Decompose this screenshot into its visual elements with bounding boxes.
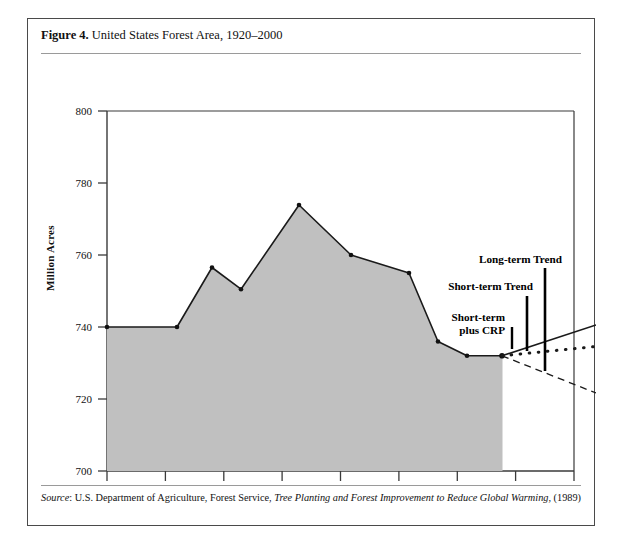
y-axis-tick-labels: 800 780 760 740 720 700 <box>76 105 93 477</box>
annotation-short-term-plus-crp-line2: plus CRP <box>459 324 505 336</box>
figure-source: Source: U.S. Department of Agriculture, … <box>41 492 589 503</box>
data-point-1943 <box>239 287 244 292</box>
y-tick-label-740: 740 <box>76 321 93 333</box>
x-axis-ticks <box>107 471 574 481</box>
data-point-1932 <box>175 325 180 330</box>
data-point-1982 <box>465 354 470 359</box>
short-term-trend-line <box>502 356 596 393</box>
title-divider <box>41 53 581 54</box>
source-publication: Tree Planting and Forest Improvement to … <box>274 492 548 503</box>
annotation-long-term-trend: Long-term Trend <box>479 253 563 265</box>
data-point-1920 <box>105 325 110 330</box>
y-axis-ticks <box>98 111 107 471</box>
data-point-1938 <box>210 265 215 270</box>
figure-card: Figure 4. United States Forest Area, 192… <box>27 18 595 526</box>
figure-title: Figure 4. United States Forest Area, 192… <box>41 28 581 43</box>
y-tick-label-800: 800 <box>76 105 93 117</box>
chart-plot-area: Million Acres 800 780 760 740 720 <box>28 59 596 484</box>
data-point-1962 <box>349 253 354 258</box>
source-year: , (1989) <box>548 492 581 503</box>
y-tick-label-720: 720 <box>76 393 93 405</box>
data-point-1953 <box>297 203 302 208</box>
figure-title-text: United States Forest Area, 1920–2000 <box>92 28 283 42</box>
data-point-1972 <box>407 271 412 276</box>
y-axis-title: Million Acres <box>44 225 56 291</box>
annotation-short-term-plus-crp-line1: Short-term <box>452 311 506 323</box>
y-tick-label-780: 780 <box>76 177 93 189</box>
data-point-1977 <box>436 339 441 344</box>
source-agency: U.S. Department of Agriculture, Forest S… <box>75 492 275 503</box>
forest-area-area-chart: 800 780 760 740 720 700 <box>28 59 596 484</box>
forest-area-fill <box>107 205 502 471</box>
figure-number: Figure 4. <box>41 28 89 42</box>
source-divider <box>41 485 581 486</box>
source-label: Source <box>41 492 69 503</box>
y-tick-label-760: 760 <box>76 249 93 261</box>
y-tick-label-700: 700 <box>76 465 93 477</box>
annotation-short-term-trend: Short-term Trend <box>448 280 534 292</box>
